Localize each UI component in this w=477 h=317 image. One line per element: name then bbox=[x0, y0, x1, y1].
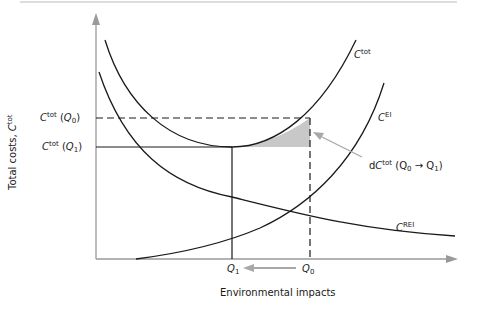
x-axis-arrow-icon bbox=[446, 255, 458, 263]
curve-c-tot bbox=[105, 40, 356, 147]
annotation-arrow-icon bbox=[313, 132, 324, 140]
annotation-label: dCtot (Q0 → Q1) bbox=[369, 160, 443, 173]
label-c-rei: CREI bbox=[396, 222, 414, 233]
y-tick-c-tot-q0: Ctot (Q0) bbox=[40, 112, 80, 125]
annotation-arrow-line bbox=[320, 136, 362, 157]
x-axis-label: Environmental impacts bbox=[220, 288, 336, 298]
curve-c-ei bbox=[136, 83, 384, 259]
q-shift-arrow-icon bbox=[243, 264, 254, 272]
cost-reduction-area bbox=[232, 118, 310, 147]
x-tick-q1: Q1 bbox=[227, 264, 239, 276]
label-c-ei: CEI bbox=[378, 112, 391, 123]
curve-c-rei bbox=[99, 72, 455, 236]
x-tick-q0: Q0 bbox=[302, 264, 314, 276]
y-tick-c-tot-q1: Ctot (Q1) bbox=[42, 141, 82, 154]
y-axis-arrow-icon bbox=[92, 13, 100, 25]
label-c-tot: Ctot bbox=[354, 49, 371, 60]
y-axis-label: Total costs, Ctot bbox=[6, 114, 18, 190]
